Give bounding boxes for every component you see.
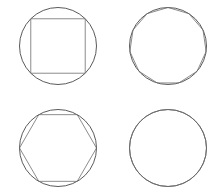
panel-group [20,8,207,187]
circle-bottom-left [20,110,97,187]
inscribed-hexagon [20,115,97,182]
polygon-approximation-figure [0,0,218,194]
panel-bottom-right [130,110,207,187]
figure-canvas [0,0,218,194]
panel-bottom-left [20,110,97,187]
panel-top-right [130,8,207,85]
inscribed-many-sided-polygon [130,110,207,187]
panel-top-left [20,8,97,85]
inscribed-square [31,19,85,73]
